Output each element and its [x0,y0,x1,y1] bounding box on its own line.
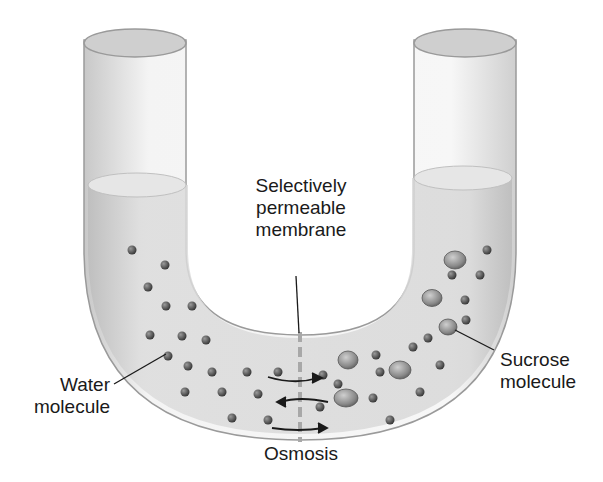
membrane-leader [296,276,299,333]
sucrose-label: Sucrose molecule [500,349,600,393]
membrane-label: Selectively permeable membrane [236,175,366,241]
water-label: Water molecule [20,374,110,418]
left-surface [88,173,186,197]
right-surface [414,166,512,190]
osmosis-label: Osmosis [236,443,366,465]
left-opening [84,29,186,57]
right-opening [414,29,516,57]
